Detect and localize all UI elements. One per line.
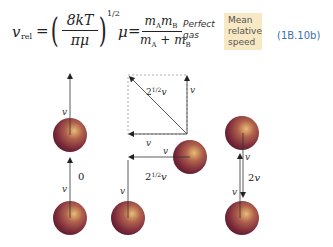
middle-perpendicular-case: 21/2v v v v v 21/2v: [111, 75, 207, 235]
label-v-middle-right: v: [163, 146, 168, 156]
label-v-left-top: v: [62, 107, 67, 117]
label-v-right-bottom: v: [232, 187, 237, 197]
label-relative-left: 0: [78, 171, 84, 182]
label-diagonal: 21/2v: [146, 86, 166, 97]
right-antiparallel-case: v v 2v: [225, 116, 260, 235]
label-relative-right: 2v: [248, 172, 260, 183]
collision-diagram: v v 0 21/2v v v v v 21/2v v v 2v: [0, 0, 333, 247]
label-v-middle-bottom: v: [120, 186, 125, 196]
label-v-left-bottom: v: [62, 184, 67, 194]
label-relative-middle: 21/2v: [145, 171, 167, 182]
sphere-right-top: [225, 116, 259, 150]
sphere-right-bottom: [225, 201, 259, 235]
label-v-square-right: v: [190, 85, 195, 95]
left-parallel-case: v v 0: [53, 76, 87, 235]
label-v-right-top: v: [245, 152, 250, 162]
label-v-square-bottom: v: [146, 138, 151, 148]
